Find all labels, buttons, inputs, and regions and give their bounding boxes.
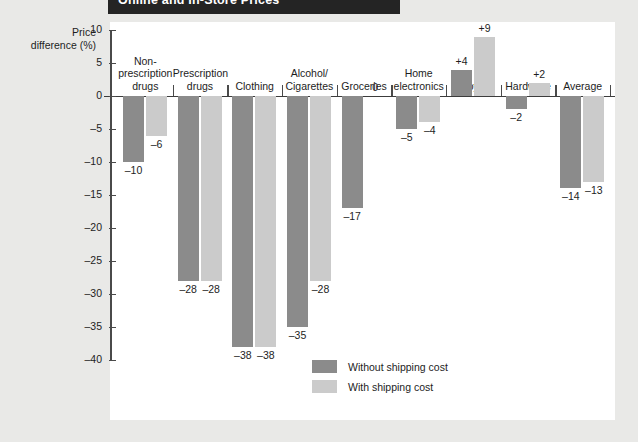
bar-light[interactable] [529, 83, 550, 96]
bar-dark[interactable] [560, 96, 581, 188]
legend-swatch [312, 380, 337, 393]
category-separator-tick [555, 85, 556, 96]
bar-group[interactable]: Toys+4+9 [446, 22, 501, 420]
legend-swatch [312, 360, 337, 373]
bar-dark[interactable] [342, 96, 363, 208]
bar-value-label: –35 [281, 329, 315, 341]
category-separator-tick [610, 85, 611, 96]
y-axis-tick-label: –15 [62, 188, 102, 200]
bar-value-label: 0 [358, 81, 392, 93]
bar-group[interactable]: Prescriptiondrugs–28–28 [173, 22, 228, 420]
y-axis-tick-label: 10 [62, 23, 102, 35]
y-axis-tick [109, 63, 116, 64]
y-axis-tick [109, 327, 116, 328]
bar-light[interactable] [474, 37, 495, 96]
y-axis-tick [109, 360, 116, 361]
category-separator-tick [227, 85, 228, 96]
y-axis-tick-label: –25 [62, 254, 102, 266]
bar-light[interactable] [310, 96, 331, 281]
category-label-line: Alcohol/ [282, 67, 337, 80]
category-separator-tick [501, 85, 502, 96]
y-axis-tick [109, 294, 116, 295]
bar-dark[interactable] [506, 96, 527, 109]
category-label-line: Cigarettes [282, 80, 337, 93]
y-axis-tick [109, 261, 116, 262]
bar-value-label: –4 [413, 124, 447, 136]
chart-legend: Without shipping costWith shipping cost [312, 360, 448, 400]
bar-value-label: –28 [304, 283, 338, 295]
bar-group[interactable]: Non-prescriptiondrugs–10–6 [118, 22, 173, 420]
y-axis-tick [109, 195, 116, 196]
y-axis-tick-label: 5 [62, 56, 102, 68]
legend-item[interactable]: Without shipping cost [312, 360, 448, 373]
y-axis-tick [109, 129, 116, 130]
category-separator-tick [391, 85, 392, 96]
category-separator-tick [446, 85, 447, 96]
y-axis-tick [109, 30, 116, 31]
bar-value-label: –17 [335, 210, 369, 222]
legend-label: Without shipping cost [348, 361, 448, 373]
category-label: Non-prescriptiondrugs [118, 55, 173, 93]
bar-value-label: –6 [140, 138, 174, 150]
bar-light[interactable] [255, 96, 276, 347]
y-axis-tick-label: –5 [62, 122, 102, 134]
category-label: Average [555, 80, 610, 93]
bar-group[interactable]: Hardware–2+2 [501, 22, 556, 420]
y-axis-tick [109, 228, 116, 229]
y-axis-tick-label: –35 [62, 320, 102, 332]
bar-value-label: –38 [249, 349, 283, 361]
y-axis-tick-label: –10 [62, 155, 102, 167]
category-label: Alcohol/Cigarettes [282, 67, 337, 92]
bar-dark[interactable] [178, 96, 199, 281]
chart-title-banner: Online and In-Store Prices [108, 0, 400, 14]
bar-group[interactable]: Clothing–38–38 [227, 22, 282, 420]
y-axis-tick [109, 96, 116, 97]
category-label-line: Home [391, 67, 446, 80]
legend-item[interactable]: With shipping cost [312, 380, 448, 393]
category-separator-tick [173, 85, 174, 96]
y-axis-title-line-2: difference (%) [8, 39, 96, 52]
category-label-line: drugs [118, 80, 173, 93]
category-label-line: Prescription [173, 67, 228, 80]
category-label: Prescriptiondrugs [173, 67, 228, 92]
y-axis-tick-label: –40 [62, 353, 102, 365]
bar-value-label: –10 [117, 164, 151, 176]
legend-label: With shipping cost [348, 381, 433, 393]
category-label-line: Average [555, 80, 610, 93]
category-label-line: electronics [391, 80, 446, 93]
y-axis-tick [109, 162, 116, 163]
bar-value-label: –28 [194, 283, 228, 295]
bar-value-label: +9 [468, 22, 502, 34]
category-label-line: drugs [173, 80, 228, 93]
category-label-line: Clothing [227, 80, 282, 93]
bar-dark[interactable] [123, 96, 144, 162]
y-axis-tick-label: 0 [62, 89, 102, 101]
category-separator-tick [337, 85, 338, 96]
bar-dark[interactable] [451, 70, 472, 96]
category-label: Clothing [227, 80, 282, 93]
bar-value-label: –13 [577, 184, 611, 196]
category-label-line: Non- [118, 55, 173, 68]
category-separator-tick [282, 85, 283, 96]
bar-light[interactable] [583, 96, 604, 182]
bar-group[interactable]: Average–14–13 [555, 22, 610, 420]
y-axis-tick-label: –20 [62, 221, 102, 233]
bar-light[interactable] [201, 96, 222, 281]
category-label: Homeelectronics [391, 67, 446, 92]
bar-light[interactable] [146, 96, 167, 136]
bar-light[interactable] [419, 96, 440, 122]
bar-value-label: –2 [499, 111, 533, 123]
category-label-line: prescription [118, 67, 173, 80]
bar-dark[interactable] [232, 96, 253, 347]
chart-plot-area: 1050–5–10–15–20–25–30–35–40 Non-prescrip… [110, 22, 615, 420]
bar-value-label: +2 [522, 68, 556, 80]
y-axis-tick-label: –30 [62, 287, 102, 299]
